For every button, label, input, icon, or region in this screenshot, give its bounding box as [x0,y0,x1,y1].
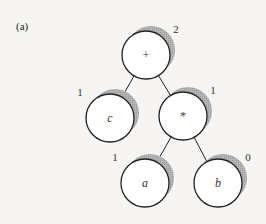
expression-tree: +2c1*1a1b0 [0,0,266,224]
node-rank-label: 1 [210,84,216,96]
node-rank-label: 0 [245,151,251,163]
tree-node-b: b0 [194,151,251,207]
node-symbol: * [180,109,186,123]
node-rank-label: 1 [77,86,83,98]
node-symbol: + [143,48,150,62]
node-symbol: a [142,176,148,190]
tree-node-mul: *1 [159,84,216,140]
tree-edge [158,76,170,96]
tree-diagram: (a) +2c1*1a1b0 [0,0,266,224]
node-symbol: c [107,111,113,125]
tree-node-root: +2 [122,23,179,79]
tree-node-c: c1 [77,86,139,142]
node-symbol: b [215,176,221,190]
node-rank-label: 1 [112,151,118,163]
tree-node-a: a1 [112,151,174,207]
node-rank-label: 2 [173,23,179,35]
tree-edge [194,137,207,161]
